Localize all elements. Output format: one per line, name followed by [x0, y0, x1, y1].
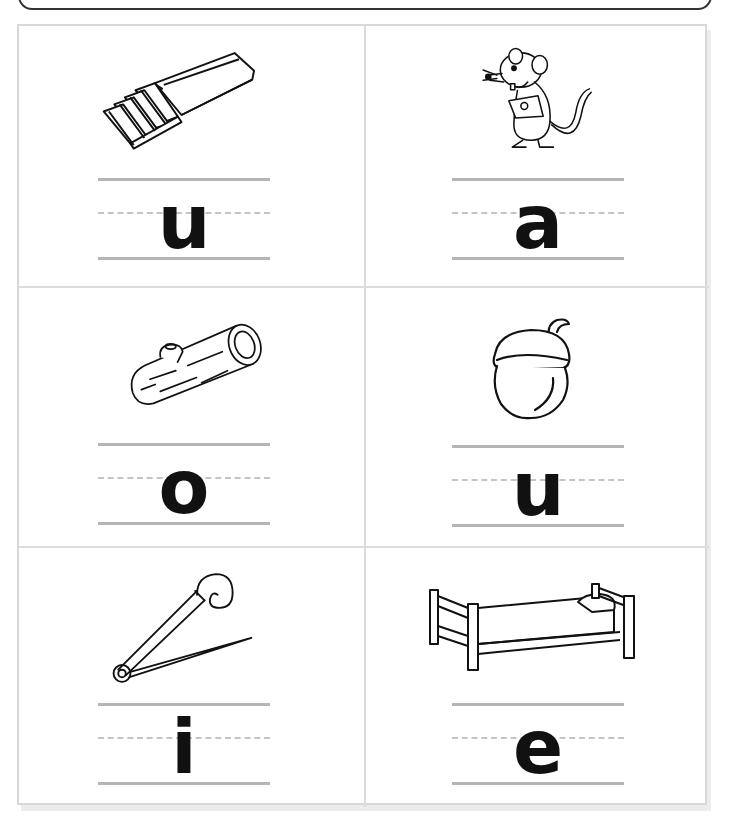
writing-lines: u — [98, 178, 270, 260]
vowel-letter: u — [98, 185, 270, 259]
vowel-letter: i — [98, 710, 270, 784]
safety-pin-icon — [107, 565, 257, 690]
cell-safety-pin: i — [19, 548, 366, 807]
vowel-letter: o — [98, 450, 270, 524]
rat-icon — [478, 40, 598, 160]
writing-lines: o — [98, 443, 270, 525]
cell-rat: a — [366, 26, 709, 288]
writing-lines: a — [452, 178, 624, 260]
writing-lines: u — [452, 445, 624, 527]
cell-gum: u — [19, 26, 366, 288]
writing-lines: e — [452, 703, 624, 785]
log-icon — [119, 313, 274, 418]
vowel-letter: u — [452, 452, 624, 526]
cell-bed: e — [366, 548, 709, 807]
vowel-letter: e — [452, 710, 624, 784]
acorn-icon — [483, 314, 583, 426]
vowel-letter: a — [452, 185, 624, 259]
writing-lines: i — [98, 703, 270, 785]
worksheet-grid: u — [17, 24, 707, 805]
instruction-box — [18, 0, 712, 10]
bed-icon — [428, 582, 638, 672]
chewing-gum-icon — [89, 46, 274, 161]
cell-log: o — [19, 288, 366, 548]
cell-acorn: u — [366, 288, 709, 548]
